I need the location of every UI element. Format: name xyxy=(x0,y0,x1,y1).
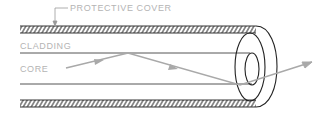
core-label: CORE xyxy=(20,64,48,74)
fiber-end-cap xyxy=(235,26,277,107)
light-ray xyxy=(66,53,312,85)
core-boundary xyxy=(20,53,252,84)
cladding-label: CLADDING xyxy=(20,41,71,51)
fiber-diagram xyxy=(0,0,323,126)
protective-cover-leader xyxy=(53,8,68,26)
protective-cover-label: PROTECTIVE COVER xyxy=(70,3,172,13)
protective-cover xyxy=(20,26,256,107)
